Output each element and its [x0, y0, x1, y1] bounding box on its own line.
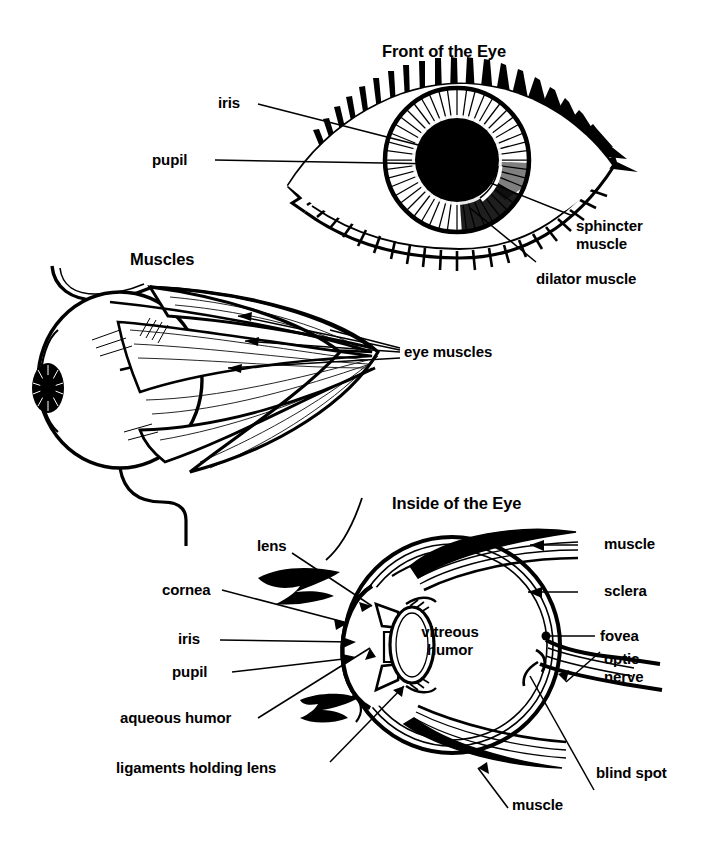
decorative-ink-wedge-lower	[300, 694, 358, 723]
vitreous-line-2: humor	[427, 641, 473, 658]
diagram-page: Front of the Eye iris pupil sphincter mu…	[0, 0, 706, 858]
muscles-illustration	[32, 266, 400, 546]
vitreous-line-1: vitreous	[421, 623, 479, 640]
optic-line-1: optic	[604, 650, 639, 667]
inside-label-vitreous-humor: vitreous humor	[404, 623, 496, 659]
superior-oblique-tendon-inner	[60, 268, 144, 294]
inside-label-iris: iris	[178, 631, 200, 648]
front-label-iris: iris	[218, 95, 240, 112]
inside-label-lens: lens	[257, 538, 287, 555]
inside-label-sclera: sclera	[604, 583, 647, 600]
front-label-sphincter-muscle: sphincter muscle	[576, 217, 643, 253]
eye-anatomy-artwork	[0, 0, 706, 858]
inside-label-pupil: pupil	[172, 664, 207, 681]
sphincter-line-1: sphincter	[576, 217, 643, 234]
inside-label-blind-spot: blind spot	[596, 765, 667, 782]
inside-label-aqueous-humor: aqueous humor	[120, 710, 231, 727]
decorative-ink-wedge-upper	[258, 568, 340, 604]
front-label-dilator-muscle: dilator muscle	[536, 271, 636, 288]
optic-line-2: nerve	[604, 668, 644, 685]
inside-label-optic-nerve: optic nerve	[604, 650, 644, 686]
muscles-label-eye-muscles: eye muscles	[404, 344, 492, 361]
decorative-curve	[326, 498, 362, 560]
front-of-eye-illustration	[215, 57, 638, 271]
inside-of-eye-title: Inside of the Eye	[392, 494, 521, 513]
front-label-pupil: pupil	[152, 152, 187, 169]
inside-label-fovea: fovea	[600, 628, 639, 645]
front-of-eye-title: Front of the Eye	[382, 42, 506, 61]
pupil-circle	[415, 118, 499, 202]
globe-pupil-core	[40, 375, 56, 401]
muscles-title: Muscles	[130, 250, 194, 269]
inside-label-ligaments-holding-lens: ligaments holding lens	[116, 760, 276, 777]
inside-label-muscle-top: muscle	[604, 536, 655, 553]
inside-label-cornea: cornea	[162, 582, 211, 599]
inside-label-muscle-bottom: muscle	[512, 797, 563, 814]
optic-nerve-muscles-panel	[120, 468, 186, 546]
sphincter-line-2: muscle	[576, 235, 627, 252]
